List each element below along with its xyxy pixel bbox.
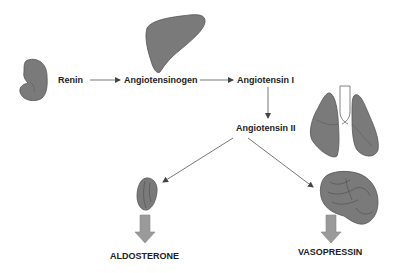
block-arrow-vasopressin	[321, 215, 341, 243]
node-angiotensin-2: Angiotensin II	[236, 124, 296, 133]
node-angiotensinogen: Angiotensinogen	[124, 76, 198, 85]
liver-icon	[146, 15, 205, 73]
node-vasopressin: VASOPRESSIN	[298, 248, 362, 257]
node-aldosterone: ALDOSTERONE	[110, 252, 179, 261]
raas-diagram: Renin Angiotensinogen Angiotensin I Angi…	[0, 0, 394, 273]
block-arrow-aldosterone	[135, 215, 155, 243]
node-angiotensin-1: Angiotensin I	[237, 76, 294, 85]
kidney-icon	[20, 59, 47, 100]
adrenal-gland-icon	[137, 178, 157, 210]
arrow-angiotensin2-to-adrenal	[163, 138, 233, 182]
diagram-canvas	[0, 0, 394, 273]
arrow-angiotensin2-to-brain	[248, 138, 313, 187]
node-renin: Renin	[58, 76, 83, 85]
lungs-icon	[310, 86, 378, 157]
